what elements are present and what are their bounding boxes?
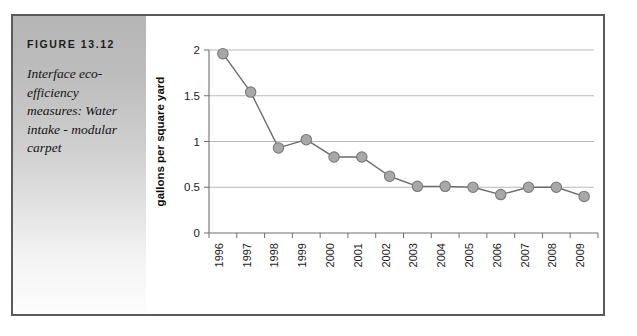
- figure-number-label: FIGURE 13.12: [27, 38, 136, 50]
- data-point-marker: [551, 182, 561, 192]
- x-tick-label: 2001: [352, 243, 364, 267]
- x-tick-label: 1998: [268, 243, 280, 267]
- figure-caption-text: Interface eco-efficiency measures: Water…: [27, 65, 135, 158]
- data-point-marker: [523, 182, 533, 192]
- x-tick-label: 2006: [491, 243, 503, 267]
- grid-lines: [209, 50, 594, 187]
- chart-region: 00.511.52 199619971998199920002001200220…: [146, 16, 603, 314]
- y-tick-label: 2: [194, 44, 200, 56]
- data-series: [218, 48, 590, 201]
- y-axis-title-text: gallons per square yard: [154, 77, 166, 207]
- data-point-marker: [496, 189, 506, 199]
- data-point-marker: [245, 87, 255, 97]
- x-tick-label: 1997: [241, 243, 253, 267]
- data-point-marker: [301, 134, 311, 144]
- figure-caption-panel: FIGURE 13.12 Interface eco-efficiency me…: [13, 16, 146, 314]
- y-tick-label: 0.5: [184, 181, 200, 193]
- data-point-marker: [273, 143, 283, 153]
- x-tick-label: 2004: [435, 243, 447, 267]
- x-axis: 1996199719981999200020012002200320042005…: [209, 233, 598, 267]
- y-tick-label: 0: [194, 227, 200, 239]
- data-point-marker: [468, 182, 478, 192]
- x-tick-label: 2002: [380, 243, 392, 267]
- line-chart: 00.511.52 199619971998199920002001200220…: [146, 16, 603, 314]
- y-tick-label: 1: [194, 136, 200, 148]
- series-line: [223, 54, 584, 197]
- data-point-marker: [384, 171, 394, 181]
- y-axis: 00.511.52: [184, 44, 209, 239]
- y-axis-title: gallons per square yard: [154, 77, 166, 207]
- x-tick-label: 2005: [463, 243, 475, 267]
- x-tick-label: 2009: [574, 243, 586, 267]
- data-point-marker: [579, 191, 589, 201]
- data-point-marker: [218, 48, 228, 58]
- data-point-marker: [357, 152, 367, 162]
- x-tick-label: 2003: [407, 243, 419, 267]
- y-tick-label: 1.5: [184, 90, 200, 102]
- x-tick-label: 1999: [296, 243, 308, 267]
- data-point-marker: [440, 181, 450, 191]
- x-tick-label: 2007: [519, 243, 531, 267]
- figure-frame: FIGURE 13.12 Interface eco-efficiency me…: [11, 14, 605, 316]
- data-point-marker: [329, 152, 339, 162]
- data-point-marker: [412, 181, 422, 191]
- x-tick-label: 2008: [546, 243, 558, 267]
- x-tick-label: 2000: [324, 243, 336, 267]
- x-tick-label: 1996: [213, 243, 225, 267]
